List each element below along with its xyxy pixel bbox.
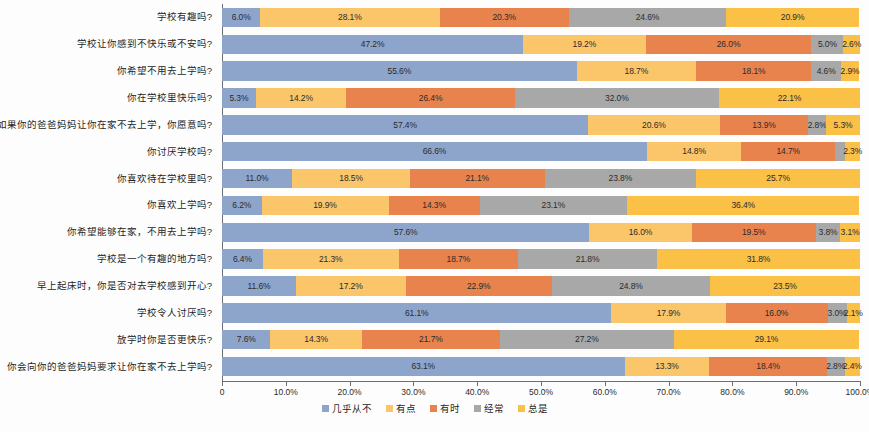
bar-segment-value-label: 6.2% bbox=[232, 201, 251, 210]
bar-segment-value-label: 55.6% bbox=[388, 67, 412, 76]
bar-segment-value-label: 18.4% bbox=[756, 362, 780, 371]
y-axis-category-label: 学校令人讨厌吗? bbox=[137, 308, 212, 318]
chart-legend: 几乎从不有点有时经常总是 bbox=[0, 404, 869, 414]
bar-segment: 19.9% bbox=[262, 196, 389, 215]
bar-segment-value-label: 2.6% bbox=[842, 40, 861, 49]
legend-item[interactable]: 有点 bbox=[386, 404, 416, 414]
bar-segment-value-label: 14.8% bbox=[682, 147, 706, 156]
bar-segment-value-label: 20.9% bbox=[781, 13, 805, 22]
bar-segment: 17.9% bbox=[611, 303, 725, 322]
bar-segment-value-label: 22.1% bbox=[778, 94, 802, 103]
bar-row: 6.4%21.3%18.7%21.8%31.8% bbox=[222, 249, 860, 268]
bar-segment: 24.6% bbox=[569, 8, 726, 27]
bar-segment: 13.3% bbox=[625, 357, 710, 376]
y-axis-category-label: 你希望能够在家，不用去上学吗? bbox=[67, 228, 212, 238]
bar-segment: 7.6% bbox=[222, 330, 270, 349]
bar-segment-value-label: 21.7% bbox=[419, 335, 443, 344]
x-axis-tick-mark bbox=[222, 382, 223, 386]
bar-segment-value-label: 26.4% bbox=[419, 94, 443, 103]
x-axis-tick-label: 50.0% bbox=[529, 387, 553, 397]
bar-segment: 18.1% bbox=[696, 61, 811, 80]
legend-item[interactable]: 总是 bbox=[518, 404, 548, 414]
legend-series-label: 有时 bbox=[440, 404, 460, 414]
x-axis-tick-mark bbox=[286, 382, 287, 386]
bar-segment-value-label: 21.1% bbox=[465, 174, 489, 183]
bar-row: 61.1%17.9%16.0%3.0%2.1% bbox=[222, 303, 860, 322]
bar-segment-value-label: 32.0% bbox=[605, 94, 629, 103]
x-axis-tick-mark bbox=[477, 382, 478, 386]
bar-row: 11.6%17.2%22.9%24.8%23.5% bbox=[222, 276, 860, 295]
bar-segment: 22.1% bbox=[719, 88, 860, 107]
bar-segment-value-label: 6.4% bbox=[233, 255, 252, 264]
y-axis-category-label: 放学时你是否更快乐? bbox=[117, 335, 212, 345]
bar-segment: 14.3% bbox=[389, 196, 480, 215]
bar-segment-value-label: 23.1% bbox=[542, 201, 566, 210]
legend-item[interactable]: 经常 bbox=[474, 404, 504, 414]
bar-row: 55.6%18.7%18.1%4.6%2.9% bbox=[222, 61, 860, 80]
x-axis-tick-label: 10.0% bbox=[274, 387, 298, 397]
x-axis-ticks: 010.0%20.0%30.0%40.0%50.0%60.0%70.0%80.0… bbox=[222, 382, 861, 398]
bar-segment-value-label: 5.3% bbox=[834, 121, 853, 130]
bar-segment-value-label: 18.7% bbox=[625, 67, 649, 76]
bar-segment-value-label: 47.2% bbox=[361, 40, 385, 49]
bar-segment: 29.1% bbox=[674, 330, 860, 349]
bar-segment-value-label: 14.7% bbox=[776, 147, 800, 156]
bar-segment: 66.6% bbox=[222, 142, 647, 161]
bar-segment: 14.2% bbox=[256, 88, 347, 107]
bar-segment: 25.7% bbox=[696, 169, 860, 188]
bar-segment: 4.6% bbox=[811, 61, 840, 80]
bar-segment: 6.2% bbox=[222, 196, 262, 215]
bar-segment-value-label: 17.2% bbox=[339, 282, 363, 291]
legend-item[interactable]: 有时 bbox=[430, 404, 460, 414]
bar-segment-value-label: 25.7% bbox=[766, 174, 790, 183]
bar-segment-value-label: 57.6% bbox=[394, 228, 418, 237]
bar-segment-value-label: 14.2% bbox=[289, 94, 313, 103]
bar-segment: 6.4% bbox=[222, 249, 263, 268]
bar-segment-value-label: 2.1% bbox=[844, 309, 863, 318]
bar-segment-value-label: 20.6% bbox=[642, 121, 666, 130]
x-axis-tick-mark bbox=[669, 382, 670, 386]
y-axis-category-label: 如果你的爸爸妈妈让你在家不去上学，你愿意吗? bbox=[0, 120, 212, 130]
legend-color-swatch bbox=[322, 405, 329, 412]
bar-segment: 16.0% bbox=[726, 303, 828, 322]
x-axis-tick-label: 80.0% bbox=[720, 387, 744, 397]
legend-series-label: 总是 bbox=[528, 404, 548, 414]
bar-segment-value-label: 24.6% bbox=[636, 13, 660, 22]
bar-segment-value-label: 3.8% bbox=[819, 228, 838, 237]
stacked-bar-chart: 学校有趣吗?学校让你感到不快乐或不安吗?你希望不用去上学吗?你在学校里快乐吗?如… bbox=[0, 0, 869, 432]
bar-segment: 3.1% bbox=[840, 223, 860, 242]
bar-segment: 13.9% bbox=[720, 115, 809, 134]
bar-segment-value-label: 2.8% bbox=[808, 121, 827, 130]
y-axis-category-label: 你希望不用去上学吗? bbox=[117, 66, 212, 76]
bar-segment-value-label: 2.3% bbox=[843, 147, 862, 156]
bar-row: 7.6%14.3%21.7%27.2%29.1% bbox=[222, 330, 860, 349]
bar-segment: 55.6% bbox=[222, 61, 577, 80]
bar-segment-value-label: 29.1% bbox=[755, 335, 779, 344]
bar-segment-value-label: 4.6% bbox=[817, 67, 836, 76]
bar-segment-value-label: 26.0% bbox=[717, 40, 741, 49]
bar-segment: 36.4% bbox=[627, 196, 859, 215]
bar-segment: 18.7% bbox=[577, 61, 696, 80]
x-axis-tick-mark bbox=[350, 382, 351, 386]
bar-segment: 16.0% bbox=[589, 223, 691, 242]
bar-segment-value-label: 11.6% bbox=[248, 282, 271, 291]
y-axis-category-label: 你喜欢待在学校里吗? bbox=[117, 174, 212, 184]
bar-segment-value-label: 36.4% bbox=[731, 201, 755, 210]
legend-item[interactable]: 几乎从不 bbox=[322, 404, 372, 414]
bar-row: 57.6%16.0%19.5%3.8%3.1% bbox=[222, 223, 860, 242]
bar-segment: 21.3% bbox=[263, 249, 399, 268]
bar-segment-value-label: 21.3% bbox=[319, 255, 343, 264]
bar-row: 6.2%19.9%14.3%23.1%36.4% bbox=[222, 196, 860, 215]
legend-series-label: 经常 bbox=[484, 404, 504, 414]
y-axis-category-label: 你会向你的爸爸妈妈要求让你在家不去上学吗? bbox=[7, 362, 212, 372]
bar-segment: 23.8% bbox=[545, 169, 697, 188]
bar-segment: 2.1% bbox=[847, 303, 860, 322]
bar-segment-value-label: 63.1% bbox=[411, 362, 435, 371]
x-axis-tick-mark bbox=[413, 382, 414, 386]
bar-segment-value-label: 11.0% bbox=[246, 174, 269, 183]
bar-segment: 2.6% bbox=[843, 35, 860, 54]
bar-segment: 11.0% bbox=[222, 169, 292, 188]
x-axis-tick-mark bbox=[605, 382, 606, 386]
bar-segment: 26.4% bbox=[346, 88, 514, 107]
bar-segment: 2.3% bbox=[845, 142, 860, 161]
